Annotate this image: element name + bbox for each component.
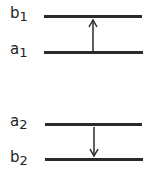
energy-level-a2 <box>45 123 142 126</box>
arrow-up-icon <box>87 18 99 52</box>
energy-level-a1 <box>44 51 143 54</box>
energy-level-b2 <box>45 158 143 161</box>
label-a2: a2 <box>10 114 27 131</box>
label-b2: b2 <box>10 150 28 167</box>
arrow-down-icon <box>88 127 100 158</box>
label-a1: a1 <box>10 42 27 59</box>
label-b1: b1 <box>10 6 28 23</box>
